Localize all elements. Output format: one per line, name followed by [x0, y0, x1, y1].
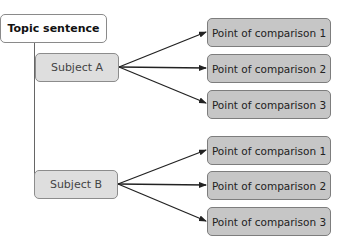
subject-b-point-1-box: Point of comparison 1 [207, 136, 331, 165]
point-label: Point of comparison 1 [212, 145, 326, 157]
topic-sentence-box: Topic sentence [0, 14, 107, 43]
subject-a-point-1-box: Point of comparison 1 [207, 18, 331, 47]
point-label: Point of comparison 2 [212, 180, 326, 192]
subject-b-point-2-box: Point of comparison 2 [207, 171, 331, 200]
point-label: Point of comparison 1 [212, 27, 326, 39]
point-label: Point of comparison 3 [212, 99, 326, 111]
subject-a-point-3-box: Point of comparison 3 [207, 90, 331, 119]
subject-b-box: Subject B [34, 170, 118, 199]
topic-sentence-label: Topic sentence [8, 22, 100, 35]
subject-b-point-3-box: Point of comparison 3 [207, 207, 331, 236]
subject-a-box: Subject A [35, 53, 119, 82]
subject-a-arrows [119, 32, 206, 103]
point-label: Point of comparison 2 [212, 63, 326, 75]
point-label: Point of comparison 3 [212, 216, 326, 228]
subject-a-point-2-box: Point of comparison 2 [207, 54, 331, 83]
subject-b-label: Subject B [50, 178, 102, 191]
subject-b-arrows [118, 150, 206, 221]
subject-a-label: Subject A [51, 61, 103, 74]
